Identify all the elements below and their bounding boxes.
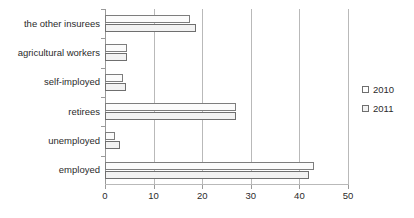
value-tick-label: 0 bbox=[102, 190, 107, 201]
bar-group bbox=[105, 38, 348, 67]
category-label-self-imployed: self-imployed bbox=[0, 76, 100, 87]
value-tick-label: 10 bbox=[148, 190, 159, 201]
value-tick-label: 50 bbox=[343, 190, 354, 201]
bar-group bbox=[105, 9, 348, 38]
bar-2011[interactable] bbox=[105, 83, 126, 91]
value-tick bbox=[154, 185, 155, 189]
bar-2011[interactable] bbox=[105, 112, 236, 120]
value-tick bbox=[202, 185, 203, 189]
bar-group bbox=[105, 97, 348, 126]
category-label-unemployed: unemployed bbox=[0, 135, 100, 146]
value-tick-label: 40 bbox=[294, 190, 305, 201]
bar-2010[interactable] bbox=[105, 15, 190, 23]
value-tick-label: 30 bbox=[246, 190, 257, 201]
legend-label: 2011 bbox=[373, 103, 393, 114]
plot-area bbox=[105, 9, 348, 185]
value-tick bbox=[348, 185, 349, 189]
bar-group bbox=[105, 126, 348, 155]
bar-chart: the other insureesagricultural workersse… bbox=[0, 0, 414, 218]
bar-group bbox=[105, 68, 348, 97]
bar-2010[interactable] bbox=[105, 103, 236, 111]
legend-label: 2010 bbox=[373, 84, 394, 95]
value-tick bbox=[105, 185, 106, 189]
value-tick bbox=[251, 185, 252, 189]
legend-item-2011[interactable]: 2011 bbox=[362, 103, 394, 114]
bar-2011[interactable] bbox=[105, 171, 309, 179]
gridline bbox=[348, 9, 349, 185]
legend-swatch-icon bbox=[362, 105, 369, 112]
category-label-employed: employed bbox=[0, 164, 100, 175]
category-label-the-other-insurees: the other insurees bbox=[0, 18, 100, 29]
legend-item-2010[interactable]: 2010 bbox=[362, 84, 394, 95]
bar-2010[interactable] bbox=[105, 132, 115, 140]
bar-group bbox=[105, 156, 348, 185]
bar-2011[interactable] bbox=[105, 141, 120, 149]
legend: 2010 2011 bbox=[362, 84, 394, 114]
bar-2010[interactable] bbox=[105, 44, 127, 52]
value-tick bbox=[299, 185, 300, 189]
category-label-agricultural-workers: agricultural workers bbox=[0, 47, 100, 58]
bar-2011[interactable] bbox=[105, 24, 196, 32]
legend-swatch-icon bbox=[362, 86, 369, 93]
category-label-retirees: retirees bbox=[0, 106, 100, 117]
bar-2010[interactable] bbox=[105, 162, 314, 170]
bar-2011[interactable] bbox=[105, 53, 127, 61]
bar-2010[interactable] bbox=[105, 74, 123, 82]
value-tick-label: 20 bbox=[197, 190, 208, 201]
